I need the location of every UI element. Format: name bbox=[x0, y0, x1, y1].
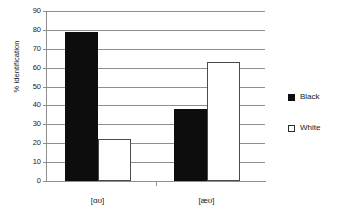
y-tick-mark bbox=[43, 143, 47, 144]
y-tick-mark bbox=[43, 124, 47, 125]
legend-item-white[interactable]: White bbox=[288, 123, 320, 133]
y-tick-mark bbox=[43, 30, 47, 31]
x-axis-separator-tick bbox=[156, 181, 157, 186]
y-tick-mark bbox=[43, 87, 47, 88]
y-tick-label: 70 bbox=[33, 45, 41, 53]
y-tick-mark bbox=[43, 49, 47, 50]
chart-legend: BlackWhite bbox=[288, 92, 320, 154]
y-tick-mark bbox=[43, 11, 47, 12]
y-tick-label: 80 bbox=[33, 26, 41, 34]
y-tick-mark bbox=[43, 181, 47, 182]
legend-label: Black bbox=[300, 93, 320, 101]
y-axis-line bbox=[46, 11, 47, 182]
bar-white-0 bbox=[98, 139, 131, 181]
y-tick-label: 50 bbox=[33, 83, 41, 91]
y-tick-label: 90 bbox=[33, 7, 41, 15]
legend-swatch-black-icon bbox=[288, 94, 295, 101]
y-tick-label: 30 bbox=[33, 121, 41, 129]
y-tick-label: 20 bbox=[33, 139, 41, 147]
x-category-label-0: [ɑʊ] bbox=[91, 196, 104, 205]
y-tick-label: 10 bbox=[33, 158, 41, 166]
bar-chart-figure: % identification 0102030405060708090 [ɑʊ… bbox=[0, 0, 339, 218]
legend-label: White bbox=[300, 124, 320, 132]
legend-swatch-white-icon bbox=[288, 125, 295, 132]
bar-black-0 bbox=[65, 32, 98, 181]
y-tick-label: 40 bbox=[33, 102, 41, 110]
gridline bbox=[47, 11, 265, 12]
y-tick-label: 60 bbox=[33, 64, 41, 72]
legend-item-black[interactable]: Black bbox=[288, 92, 320, 102]
bar-black-1 bbox=[174, 109, 207, 181]
y-tick-mark bbox=[43, 105, 47, 106]
plot-area: 0102030405060708090 bbox=[47, 11, 265, 181]
x-category-label-1: [æʊ] bbox=[198, 196, 214, 205]
y-tick-mark bbox=[43, 68, 47, 69]
y-tick-mark bbox=[43, 162, 47, 163]
gridline bbox=[47, 30, 265, 31]
y-axis-title: % identification bbox=[12, 7, 21, 127]
y-tick-label: 0 bbox=[37, 177, 41, 185]
bar-white-1 bbox=[207, 62, 240, 181]
